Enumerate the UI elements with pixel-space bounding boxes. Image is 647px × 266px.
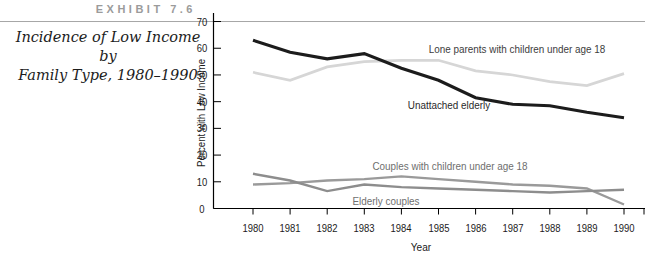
series-label-unattached-elderly: Unattached elderly [408,99,490,111]
x-tick-label: 1986 [465,222,486,234]
y-tick-label: 10 [197,176,208,188]
x-tick-label: 1983 [354,222,375,234]
series-label-couples-with-children: Couples with children under age 18 [372,160,527,172]
series-line-2 [253,174,624,193]
y-axis-title: Percent with Low Income [195,59,207,167]
y-tick-label: 0 [199,203,204,215]
series-label-elderly-couples: Elderly couples [352,195,419,207]
y-tick-label: 70 [197,16,208,28]
x-axis-title: Year [411,241,431,253]
x-tick-label: 1989 [576,222,597,234]
y-tick-label: 60 [197,42,208,54]
x-tick-label: 1981 [280,222,301,234]
exhibit-figure: EXHIBIT 7.6 Incidence of Low Income by F… [0,0,647,266]
x-tick-label: 1980 [242,222,263,234]
x-tick-label: 1984 [391,222,412,234]
x-tick-label: 1985 [428,222,449,234]
x-tick-label: 1987 [502,222,523,234]
series-label-lone-parents: Lone parents with children under age 18 [429,43,606,55]
x-tick-label: 1988 [539,222,560,234]
x-tick-label: 1990 [613,222,634,234]
series-line-1 [253,176,624,204]
x-tick-label: 1982 [317,222,338,234]
